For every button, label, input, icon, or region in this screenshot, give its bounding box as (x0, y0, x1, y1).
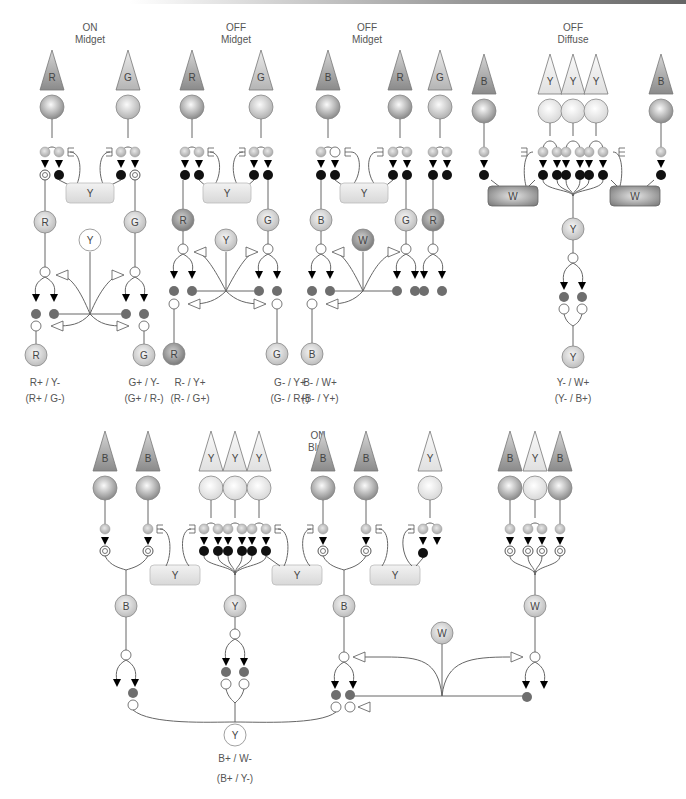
connection-curve (183, 254, 193, 273)
connection-curve (406, 254, 416, 273)
ganglion-dendrite-icon (239, 667, 249, 677)
synapse-arrow-icon (576, 160, 584, 168)
pedicle-icon (237, 524, 247, 534)
cone-triangle-icon (199, 431, 223, 471)
terminal-icon (263, 244, 273, 254)
connection-curve (218, 556, 235, 575)
caption-main: Y- / W+ (557, 377, 590, 388)
terminal-icon (121, 650, 131, 660)
on-bipolar-dendrite-icon (318, 546, 328, 556)
pedicle-icon (402, 147, 412, 157)
inhibitory-open-arrow-icon (117, 321, 129, 331)
connection-curve (278, 529, 288, 566)
connection-curve (35, 277, 45, 296)
cone-triangle-icon (247, 431, 271, 471)
synapse-arrow-icon (443, 160, 451, 168)
ganglion-dendrite-icon (128, 688, 138, 698)
retinal-circuit-diagram: ONMidgetRGYRGYRGR+ / Y-(R+ / G-)G+ / Y-(… (0, 0, 686, 799)
pedicle-icon (555, 524, 565, 534)
ganglion-dendrite-icon (410, 286, 420, 296)
on-bipolar-dendrite-icon (537, 546, 547, 556)
pedicle-icon (442, 147, 452, 157)
terminal-icon (330, 147, 340, 157)
connection-line (416, 558, 423, 566)
cone-soma-icon (561, 99, 585, 123)
cone-soma-icon (388, 95, 412, 119)
cone-label: Y (256, 453, 263, 464)
synapse-arrow-icon (506, 537, 514, 545)
synapse-arrow-icon (240, 658, 248, 666)
inhibitory-open-arrow-icon (56, 270, 68, 280)
off-bipolar-dendrite-icon (442, 170, 452, 180)
cell-label: W (358, 235, 368, 246)
cone-triangle-icon (223, 431, 247, 471)
cone-label: Y (427, 453, 434, 464)
synapse-arrow-icon (50, 294, 58, 302)
ganglion-dendrite-icon (31, 309, 41, 319)
terminal-icon (40, 267, 50, 277)
terminal-icon (559, 304, 569, 314)
on-bipolar-dendrite-icon (361, 546, 371, 556)
cone-triangle-icon (93, 431, 117, 471)
cone-triangle-icon (498, 431, 522, 471)
synapse-arrow-icon (349, 681, 357, 689)
cell-label: W (530, 601, 540, 612)
off-bipolar-dendrite-icon (388, 170, 398, 180)
cone-label: R (188, 72, 195, 83)
inhibitory-open-arrow-icon (388, 247, 400, 257)
terminal-icon (31, 321, 41, 331)
synapse-arrow-icon (560, 282, 568, 290)
caption-main: R- / Y+ (174, 377, 205, 388)
ganglion-dendrite-icon (559, 292, 569, 302)
cell-label: Y (232, 730, 239, 741)
cone-soma-icon (548, 476, 572, 500)
cone-triangle-icon (523, 431, 547, 471)
synapse-arrow-icon (419, 537, 427, 545)
synapse-arrow-icon (429, 160, 437, 168)
off-bipolar-dendrite-icon (116, 170, 126, 180)
cell-label: R (170, 349, 177, 360)
terminal-icon (128, 700, 138, 710)
panel-subtitle: Midget (221, 34, 251, 45)
horizontal-cell-label: Y (172, 570, 179, 581)
horizontal-cell-label: W (508, 191, 518, 202)
synapse-arrow-icon (224, 537, 232, 545)
terminal-icon (230, 629, 240, 639)
off-bipolar-dendrite-icon (316, 170, 326, 180)
cone-triangle-icon (538, 54, 562, 94)
connection-curve (204, 556, 235, 575)
cell-label: Y (232, 601, 239, 612)
pedicle-icon (432, 524, 442, 534)
cell-label: G (131, 217, 139, 228)
connection-curve (70, 152, 80, 186)
on-bipolar-dendrite-icon (40, 170, 50, 180)
terminal-icon (530, 652, 540, 662)
horizontal-cell-label: Y (392, 570, 399, 581)
connection-line (266, 556, 280, 566)
cone-soma-icon (247, 476, 271, 500)
off-bipolar-dendrite-icon (263, 170, 273, 180)
ganglion-dendrite-icon (437, 286, 447, 296)
synapse-arrow-icon (389, 160, 397, 168)
off-bipolar-dendrite-icon (584, 170, 594, 180)
synapse-arrow-icon (553, 160, 561, 168)
connection-curve (182, 529, 191, 566)
on-bipolar-dendrite-icon (523, 546, 533, 556)
synapse-arrow-icon (480, 160, 488, 168)
horizontal-contact-icon (377, 148, 383, 156)
terminal-icon (401, 244, 411, 254)
synapse-arrow-icon (181, 160, 189, 168)
cone-triangle-icon (649, 54, 673, 94)
off-bipolar-dendrite-icon (199, 546, 209, 556)
connection-curve (235, 639, 245, 660)
synapse-arrow-icon (144, 537, 152, 545)
pedicle-icon (40, 147, 50, 157)
caption-alt: (G+ / R-) (124, 393, 163, 404)
off-bipolar-dendrite-icon (223, 546, 233, 556)
cell-label: Y (570, 352, 577, 363)
off-bipolar-dendrite-icon (180, 170, 190, 180)
off-bipolar-dendrite-icon (194, 170, 204, 180)
cell-label: B (341, 601, 348, 612)
connection-curve (433, 254, 443, 273)
connection-curve (125, 277, 135, 296)
